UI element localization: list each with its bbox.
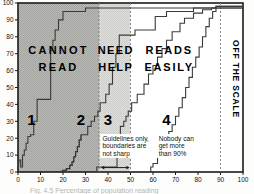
x-tick-label-50: 50 [127, 176, 135, 183]
curve-label-1: 1 [27, 111, 35, 128]
zone-label-need-help-line2: HELP [98, 61, 133, 73]
curve-label-2: 2 [77, 111, 85, 128]
y-tick-label-40: 40 [6, 101, 14, 108]
y-tick-label-90: 90 [6, 16, 14, 23]
zone-label-need-help-line1: NEED [98, 44, 134, 56]
curve-label-3: 3 [104, 111, 112, 128]
y-tick-label-70: 70 [6, 50, 14, 57]
cumulative-distribution-chart: 0102030405060708090100010203040506070809… [0, 0, 254, 194]
figure-container: 0102030405060708090100010203040506070809… [0, 0, 254, 194]
y-tick-label-100: 100 [3, 0, 14, 6]
y-tick-label-30: 30 [6, 118, 14, 125]
x-tick-label-90: 90 [217, 176, 225, 183]
figure-caption-text: Fig. 4.5 Percentage of population readin… [30, 187, 159, 194]
x-tick-label-10: 10 [37, 176, 45, 183]
y-tick-label-20: 20 [6, 135, 14, 142]
figure-caption: Fig. 4.5 Percentage of population readin… [30, 187, 159, 194]
y-tick-label-80: 80 [6, 33, 14, 40]
y-tick-label-60: 60 [6, 67, 14, 74]
y-tick-label-10: 10 [6, 151, 14, 158]
x-tick-label-30: 30 [82, 176, 90, 183]
y-tick-label-50: 50 [6, 84, 14, 91]
x-tick-label-70: 70 [172, 176, 180, 183]
x-tick-label-40: 40 [104, 176, 112, 183]
x-tick-label-60: 60 [149, 176, 157, 183]
off-the-scale-label: OFF THE SCALE [231, 40, 241, 118]
ceiling-note-line3: than 90% [159, 150, 187, 157]
curve-label-4: 4 [162, 111, 171, 128]
y-tick-label-0: 0 [10, 168, 14, 175]
zone-label-cannot-read-line1: CANNOT [28, 44, 88, 56]
zone-label-cannot-read-line2: READ [39, 61, 79, 73]
boundaries-note-line3: not sharp [102, 150, 130, 158]
x-tick-label-0: 0 [16, 176, 20, 183]
x-tick-label-100: 100 [238, 176, 249, 183]
x-tick-label-80: 80 [194, 176, 202, 183]
boundaries-note-line2: boundaries are [102, 142, 146, 149]
zone-label-reads-easily-line2: EASILY [144, 61, 194, 73]
x-tick-label-20: 20 [59, 176, 67, 183]
zone-label-reads-easily-line1: READS [145, 44, 193, 56]
